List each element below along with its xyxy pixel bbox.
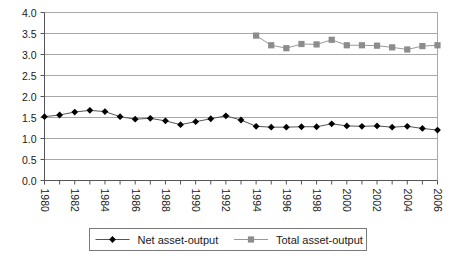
legend-label: Net asset-output xyxy=(138,234,219,246)
x-tick-label: 1996 xyxy=(281,189,293,213)
x-tick-label: 1984 xyxy=(99,189,111,213)
data-point-marker xyxy=(283,45,289,51)
data-point-marker xyxy=(404,46,410,52)
data-point-marker xyxy=(359,42,365,48)
chart-canvas: 0.00.51.01.52.02.53.03.54.0 198019821984… xyxy=(0,0,454,265)
x-tick-label: 1980 xyxy=(39,189,51,213)
data-point-marker xyxy=(268,42,274,48)
legend-label: Total asset-output xyxy=(276,234,363,246)
y-tick-label: 3.0 xyxy=(22,49,37,61)
x-tick-label: 1988 xyxy=(160,189,172,213)
y-tick-label: 2.5 xyxy=(22,70,37,82)
data-point-marker xyxy=(329,37,335,43)
y-tick-label: 0.5 xyxy=(22,154,37,166)
plot-background xyxy=(0,0,454,265)
x-tick-label: 1986 xyxy=(130,189,142,213)
asset-output-ratio-chart: 0.00.51.01.52.02.53.03.54.0 198019821984… xyxy=(0,0,454,265)
data-point-marker xyxy=(434,42,440,48)
data-point-marker xyxy=(374,43,380,49)
y-tick-label: 3.5 xyxy=(22,28,37,40)
y-tick-label: 4.0 xyxy=(22,7,37,19)
chart-legend: Net asset-outputTotal asset-output xyxy=(90,229,367,251)
x-tick-label: 1990 xyxy=(190,189,202,213)
y-tick-label: 1.0 xyxy=(22,133,37,145)
data-point-marker xyxy=(248,236,254,242)
x-tick-label: 1998 xyxy=(311,189,323,213)
x-tick-label: 2006 xyxy=(432,189,444,213)
data-point-marker xyxy=(344,42,350,48)
data-point-marker xyxy=(253,33,259,39)
x-tick-label: 2000 xyxy=(341,189,353,213)
y-tick-label: 0.0 xyxy=(22,175,37,187)
y-tick-label: 2.0 xyxy=(22,91,37,103)
x-tick-label: 1992 xyxy=(220,189,232,213)
data-point-marker xyxy=(313,41,319,47)
y-tick-label: 1.5 xyxy=(22,112,37,124)
x-tick-label: 1994 xyxy=(251,189,263,213)
x-tick-label: 2002 xyxy=(371,189,383,213)
x-tick-label: 1982 xyxy=(69,189,81,213)
data-point-marker xyxy=(419,43,425,49)
data-point-marker xyxy=(298,41,304,47)
data-point-marker xyxy=(389,44,395,50)
y-axis-tick-labels: 0.00.51.01.52.02.53.03.54.0 xyxy=(22,7,45,187)
x-tick-label: 2004 xyxy=(402,189,414,213)
